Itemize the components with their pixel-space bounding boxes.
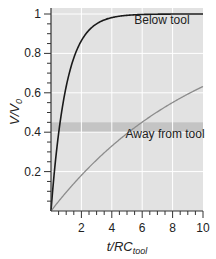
x-tick-label: 4 (108, 221, 115, 235)
annotation-away-from-tool: Away from tool (125, 127, 204, 141)
x-tick-label: 10 (196, 221, 210, 235)
chart-figure: 0.20.40.60.81 246810 Below tool Away fro… (0, 0, 216, 259)
x-axis-label-main: t/RC (107, 239, 134, 254)
x-axis-ticks: 246810 (59, 211, 210, 235)
annotation-below-tool: Below tool (134, 13, 189, 27)
y-tick-label: 0.4 (24, 125, 41, 139)
y-axis-ticks: 0.20.40.60.81 (24, 7, 51, 201)
x-axis-label: t/RCtool (107, 239, 149, 256)
chart-svg: 0.20.40.60.81 246810 Below tool Away fro… (0, 0, 216, 259)
y-tick-label: 0.8 (24, 46, 41, 60)
y-tick-label: 0.2 (24, 165, 41, 179)
y-axis-label: V/V0 (7, 99, 24, 125)
y-tick-label: 0.6 (24, 86, 41, 100)
plot-background (51, 8, 203, 211)
x-tick-label: 8 (169, 221, 176, 235)
y-axis-label-subscript: 0 (14, 99, 24, 104)
x-tick-label: 2 (78, 221, 85, 235)
x-axis-label-subscript: tool (133, 246, 149, 256)
x-tick-label: 6 (139, 221, 146, 235)
y-tick-label: 1 (34, 7, 41, 21)
y-axis-label-main: V/V (7, 103, 22, 125)
